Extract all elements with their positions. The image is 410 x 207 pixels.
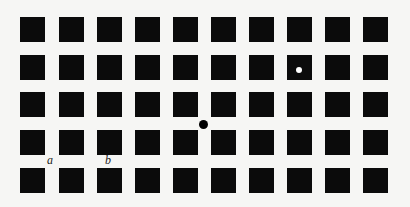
grid-square xyxy=(363,168,388,193)
grid-square xyxy=(135,130,160,155)
square-grid-figure: ab xyxy=(0,0,410,207)
grid-square xyxy=(135,92,160,117)
grid-square xyxy=(249,168,274,193)
grid-square xyxy=(59,168,84,193)
grid-square xyxy=(325,130,350,155)
grid-square xyxy=(135,168,160,193)
grid-square xyxy=(363,55,388,80)
grid-square xyxy=(59,17,84,42)
grid-square xyxy=(211,55,236,80)
grid-square xyxy=(287,17,312,42)
grid-square xyxy=(173,168,198,193)
grid-square xyxy=(97,130,122,155)
grid-square xyxy=(363,92,388,117)
grid-square xyxy=(287,168,312,193)
grid-square xyxy=(211,168,236,193)
grid-square xyxy=(363,17,388,42)
grid-square xyxy=(249,17,274,42)
grid-square xyxy=(173,17,198,42)
grid-square xyxy=(97,168,122,193)
black-dot xyxy=(199,120,208,129)
grid-square xyxy=(59,92,84,117)
grid-square xyxy=(59,55,84,80)
grid-square xyxy=(135,55,160,80)
label-a: a xyxy=(47,154,53,166)
grid-square xyxy=(97,17,122,42)
grid-square xyxy=(287,92,312,117)
grid-square xyxy=(173,92,198,117)
grid-square xyxy=(173,55,198,80)
grid-square xyxy=(249,130,274,155)
grid-square xyxy=(97,55,122,80)
grid-square xyxy=(211,92,236,117)
grid-square xyxy=(325,92,350,117)
grid-square xyxy=(211,130,236,155)
grid-square xyxy=(20,130,45,155)
grid-square xyxy=(20,92,45,117)
grid-square xyxy=(249,92,274,117)
grid-square xyxy=(59,130,84,155)
grid-square xyxy=(363,130,388,155)
grid-square xyxy=(135,17,160,42)
grid-square xyxy=(20,168,45,193)
grid-square xyxy=(325,168,350,193)
grid-square xyxy=(173,130,198,155)
grid-square xyxy=(325,17,350,42)
grid-square xyxy=(20,17,45,42)
grid-square xyxy=(20,55,45,80)
grid-square xyxy=(211,17,236,42)
grid-square xyxy=(249,55,274,80)
grid-square xyxy=(325,55,350,80)
label-b: b xyxy=(105,154,111,166)
white-dot xyxy=(296,67,302,73)
grid-square xyxy=(287,130,312,155)
grid-square xyxy=(97,92,122,117)
